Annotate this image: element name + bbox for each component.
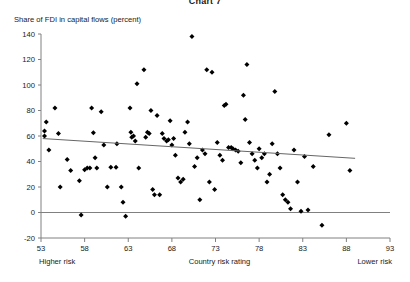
data-point (155, 113, 160, 118)
data-point (105, 185, 110, 190)
x-tick-label: 63 (124, 244, 132, 253)
data-point (127, 105, 132, 110)
data-point (311, 164, 316, 169)
data-point (257, 146, 262, 151)
data-point (119, 185, 124, 190)
data-point (121, 200, 126, 205)
y-tick-label: 140 (22, 30, 35, 39)
x-axis-title: Country risk rating (189, 257, 251, 266)
data-point (108, 165, 113, 170)
x-tick-label: 83 (299, 244, 307, 253)
data-point (141, 67, 146, 72)
x-tick-label: 88 (342, 244, 350, 253)
y-axis: -20020406080100120140 (22, 30, 41, 243)
data-point (267, 172, 272, 177)
data-point (243, 117, 248, 122)
data-point (152, 192, 157, 197)
data-point (195, 155, 200, 160)
data-point (292, 148, 297, 153)
data-point (288, 206, 293, 211)
data-point (93, 155, 98, 160)
data-point (197, 197, 202, 202)
data-point (136, 165, 141, 170)
data-point (247, 140, 252, 145)
data-point (210, 70, 215, 75)
data-point (123, 214, 128, 219)
y-tick-label: 120 (22, 55, 35, 64)
y-tick-label: 20 (27, 183, 35, 192)
x-axis: 535863687378838893 (37, 238, 394, 253)
data-point (150, 187, 155, 192)
data-point (42, 128, 47, 133)
x-tick-label: 58 (80, 244, 88, 253)
data-point (255, 165, 260, 170)
x-tick-label: 78 (255, 244, 263, 253)
data-point (94, 165, 99, 170)
data-point (259, 155, 264, 160)
data-point (68, 168, 73, 173)
data-point (56, 131, 61, 136)
data-point (326, 132, 331, 137)
data-point (347, 168, 352, 173)
data-point (168, 118, 173, 123)
data-points (42, 34, 352, 228)
data-point (173, 153, 178, 158)
data-point (305, 207, 310, 212)
y-tick-label: 100 (22, 81, 35, 90)
data-point (204, 67, 209, 72)
data-point (280, 192, 285, 197)
data-point (101, 142, 106, 147)
x-tick-label: 68 (168, 244, 176, 253)
data-point (44, 119, 49, 124)
x-tick-label: 53 (37, 244, 45, 253)
data-point (252, 158, 257, 163)
data-point (148, 108, 153, 113)
data-point (278, 165, 283, 170)
data-point (344, 121, 349, 126)
data-point (189, 34, 194, 39)
y-tick-label: -20 (24, 234, 35, 243)
data-point (157, 192, 162, 197)
chart-container: Chart 7 Share of FDI in capital flows (p… (0, 0, 410, 282)
data-point (319, 223, 324, 228)
data-point (143, 135, 148, 140)
data-point (133, 139, 138, 144)
data-point (134, 81, 139, 86)
data-point (99, 109, 104, 114)
data-point (244, 62, 249, 67)
data-point (238, 160, 243, 165)
x-tick-label: 93 (386, 244, 394, 253)
x-axis-annotations: Higher riskCountry risk ratingLower risk (39, 257, 392, 266)
data-point (89, 105, 94, 110)
data-point (46, 148, 51, 153)
data-point (203, 151, 208, 156)
data-point (87, 165, 92, 170)
x-tick-label: 73 (211, 244, 219, 253)
y-tick-label: 0 (31, 208, 35, 217)
trendline (43, 139, 355, 159)
higher-risk-label: Higher risk (39, 257, 75, 266)
data-point (220, 158, 225, 163)
lower-risk-label: Lower risk (357, 257, 392, 266)
data-point (207, 179, 212, 184)
data-point (128, 130, 133, 135)
data-point (171, 136, 176, 141)
data-point (270, 141, 275, 146)
data-point (185, 119, 190, 124)
data-point (182, 130, 187, 135)
data-point (295, 179, 300, 184)
data-point (241, 93, 246, 98)
data-point (187, 141, 192, 146)
y-tick-label: 40 (27, 157, 35, 166)
data-point (77, 178, 82, 183)
data-point (212, 187, 217, 192)
data-point (65, 157, 70, 162)
data-point (215, 140, 220, 145)
data-point (58, 185, 63, 190)
data-point (42, 134, 47, 139)
data-point (272, 89, 277, 94)
data-point (52, 105, 57, 110)
data-point (217, 153, 222, 158)
scatter-plot: -20020406080100120140 535863687378838893… (0, 0, 410, 282)
data-point (160, 131, 165, 136)
